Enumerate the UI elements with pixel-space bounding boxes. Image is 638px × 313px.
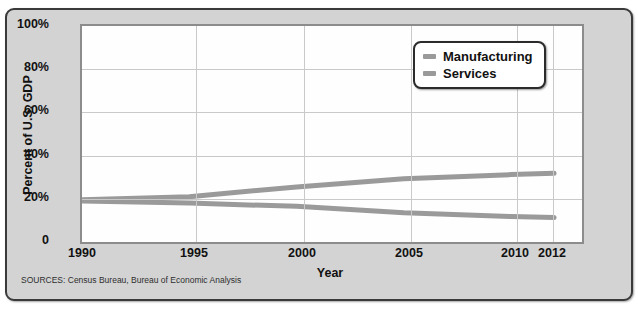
line-services bbox=[82, 173, 554, 199]
y-tick-label: 20% bbox=[1, 190, 49, 204]
y-axis-label: Percent of U.S. GDP bbox=[21, 60, 35, 210]
y-tick-label: 0 bbox=[1, 233, 49, 247]
legend-swatch-icon bbox=[423, 54, 436, 59]
y-tick-label: 40% bbox=[1, 147, 49, 161]
chart-figure: Percent of U.S. GDP 100% 80% 60% 40% 20%… bbox=[5, 8, 633, 301]
y-tick-label: 60% bbox=[1, 103, 49, 117]
x-tick-label: 1995 bbox=[164, 246, 224, 260]
sources-note: SOURCES: Census Bureau, Bureau of Econom… bbox=[21, 275, 241, 285]
legend-item-manufacturing: Manufacturing bbox=[423, 48, 533, 65]
x-tick-label: 2005 bbox=[379, 246, 439, 260]
gridline-vertical bbox=[553, 26, 554, 242]
y-tick-label: 100% bbox=[1, 17, 49, 31]
x-tick-label: 2000 bbox=[272, 246, 332, 260]
legend-label: Manufacturing bbox=[443, 49, 533, 64]
gridline-horizontal bbox=[82, 112, 582, 113]
y-tick-label: 80% bbox=[1, 60, 49, 74]
gridline-horizontal bbox=[82, 199, 582, 200]
gridline-horizontal bbox=[82, 156, 582, 157]
gridline-vertical bbox=[304, 26, 305, 242]
x-tick-label: 1990 bbox=[52, 246, 112, 260]
legend-swatch-icon bbox=[423, 71, 436, 76]
chart-legend: Manufacturing Services bbox=[413, 41, 546, 89]
legend-item-services: Services bbox=[423, 65, 533, 82]
x-tick-label: 2012 bbox=[522, 246, 582, 260]
gridline-vertical bbox=[196, 26, 197, 242]
line-manufacturing bbox=[82, 201, 554, 218]
gridline-vertical bbox=[411, 26, 412, 242]
legend-label: Services bbox=[443, 66, 497, 81]
